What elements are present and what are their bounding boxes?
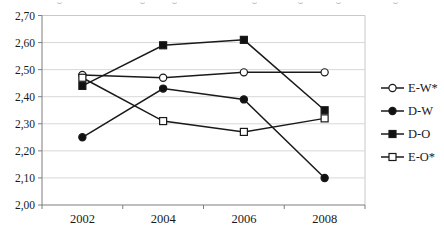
y-tick-label: 2,70 (15, 10, 35, 23)
series-line-E-W* (82, 72, 324, 77)
series-marker-E-O* (321, 115, 328, 122)
series-marker-D-O (321, 107, 328, 114)
legend-label-D-W: D-W (408, 104, 433, 118)
y-tick-label: 2,40 (15, 91, 35, 104)
x-tick-label: 2002 (70, 212, 95, 226)
y-tick-label: 2,60 (15, 37, 35, 50)
y-tick-label: 2,50 (15, 64, 35, 77)
series-marker-D-O (240, 36, 247, 43)
chart-figure: 2,002,102,202,302,402,502,602,7020022004… (0, 0, 444, 235)
legend-marker-E-O* (389, 154, 396, 161)
series-marker-D-W (240, 96, 247, 103)
line-chart: 2,002,102,202,302,402,502,602,7020022004… (0, 0, 444, 235)
legend-label-D-O: D-O (408, 127, 430, 141)
y-tick-label: 2,10 (15, 172, 35, 185)
legend-marker-D-O (389, 131, 396, 138)
legend-label-E-W*: E-W* (408, 81, 438, 95)
x-tick-label: 2008 (312, 212, 337, 226)
series-marker-E-W* (240, 69, 247, 76)
series-marker-D-W (160, 85, 167, 92)
series-marker-E-O* (240, 128, 247, 135)
series-line-D-W (82, 89, 324, 178)
x-tick-label: 2006 (231, 212, 256, 226)
x-tick-label: 2004 (151, 212, 177, 226)
series-marker-E-W* (160, 74, 167, 81)
series-marker-D-W (321, 174, 328, 181)
legend-marker-D-W (389, 107, 396, 114)
y-tick-label: 2,00 (15, 199, 35, 212)
series-marker-E-O* (79, 74, 86, 81)
y-tick-label: 2,20 (15, 145, 35, 158)
series-marker-D-O (79, 82, 86, 89)
series-marker-D-W (79, 134, 86, 141)
series-marker-E-O* (160, 118, 167, 125)
legend-label-E-O*: E-O* (408, 150, 435, 164)
series-marker-D-O (160, 42, 167, 49)
legend-marker-E-W* (389, 84, 396, 91)
series-marker-E-W* (321, 69, 328, 76)
y-tick-label: 2,30 (15, 118, 35, 131)
